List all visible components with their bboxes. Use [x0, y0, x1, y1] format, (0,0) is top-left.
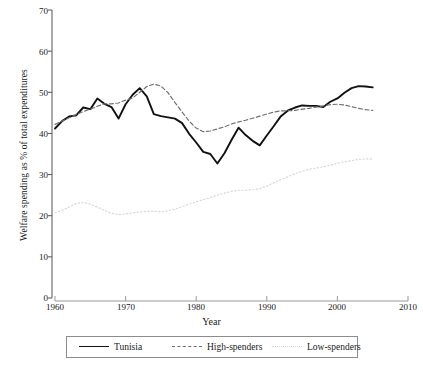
x-tick-marks [55, 296, 408, 301]
series-line-high-spenders [55, 84, 373, 132]
legend-label-tunisia: Tunisia [114, 342, 142, 352]
chart-legend: Tunisia High-spenders Low-spenders [66, 336, 358, 358]
legend-item-high-spenders: High-spenders [172, 337, 262, 357]
axis-lines [52, 10, 408, 301]
legend-item-tunisia: Tunisia [79, 337, 142, 357]
legend-swatch-dashed-icon [172, 343, 202, 351]
series-line-tunisia [55, 86, 373, 163]
data-series-group [55, 84, 373, 214]
legend-label-high-spenders: High-spenders [207, 342, 262, 352]
legend-label-low-spenders: Low-spenders [307, 342, 361, 352]
legend-item-low-spenders: Low-spenders [272, 337, 361, 357]
legend-swatch-solid-icon [79, 343, 109, 351]
chart-figure: Welfare spending as % of total expenditu… [0, 0, 423, 368]
legend-swatch-dotted-icon [272, 343, 302, 351]
y-tick-marks [48, 10, 52, 298]
series-line-low-spenders [55, 159, 373, 215]
plot-area [0, 0, 423, 368]
